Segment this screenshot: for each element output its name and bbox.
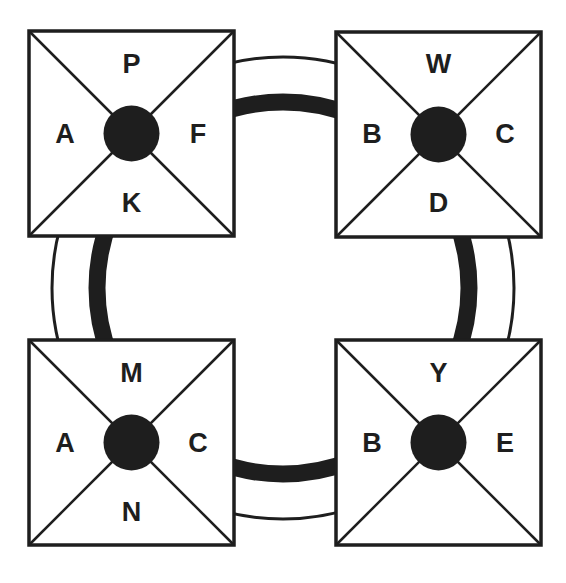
hub-dot xyxy=(104,106,160,162)
label-right: C xyxy=(495,119,515,149)
label-right: F xyxy=(190,119,207,149)
label-right: E xyxy=(496,428,514,458)
label-bottom: N xyxy=(122,497,142,527)
label-right: C xyxy=(188,428,208,458)
label-left: B xyxy=(362,428,382,458)
label-left: B xyxy=(362,119,382,149)
box-bottom-left: M A C N xyxy=(29,340,234,545)
hub-dot xyxy=(411,107,467,163)
label-top: Y xyxy=(429,358,447,388)
label-bottom: K xyxy=(122,188,142,218)
label-bottom: D xyxy=(429,188,449,218)
label-left: A xyxy=(55,119,75,149)
label-top: M xyxy=(120,358,143,388)
hub-dot xyxy=(104,415,160,471)
label-top: P xyxy=(122,49,140,79)
box-bottom-right: Y B E xyxy=(336,340,541,545)
label-left: A xyxy=(55,428,75,458)
hub-dot xyxy=(411,415,467,471)
box-top-left: P A F K xyxy=(29,31,234,236)
box-top-right: W B C D xyxy=(336,32,541,237)
label-top: W xyxy=(426,49,452,79)
diagram-canvas: P A F K W B C D M A C N Y B E xyxy=(0,0,566,583)
